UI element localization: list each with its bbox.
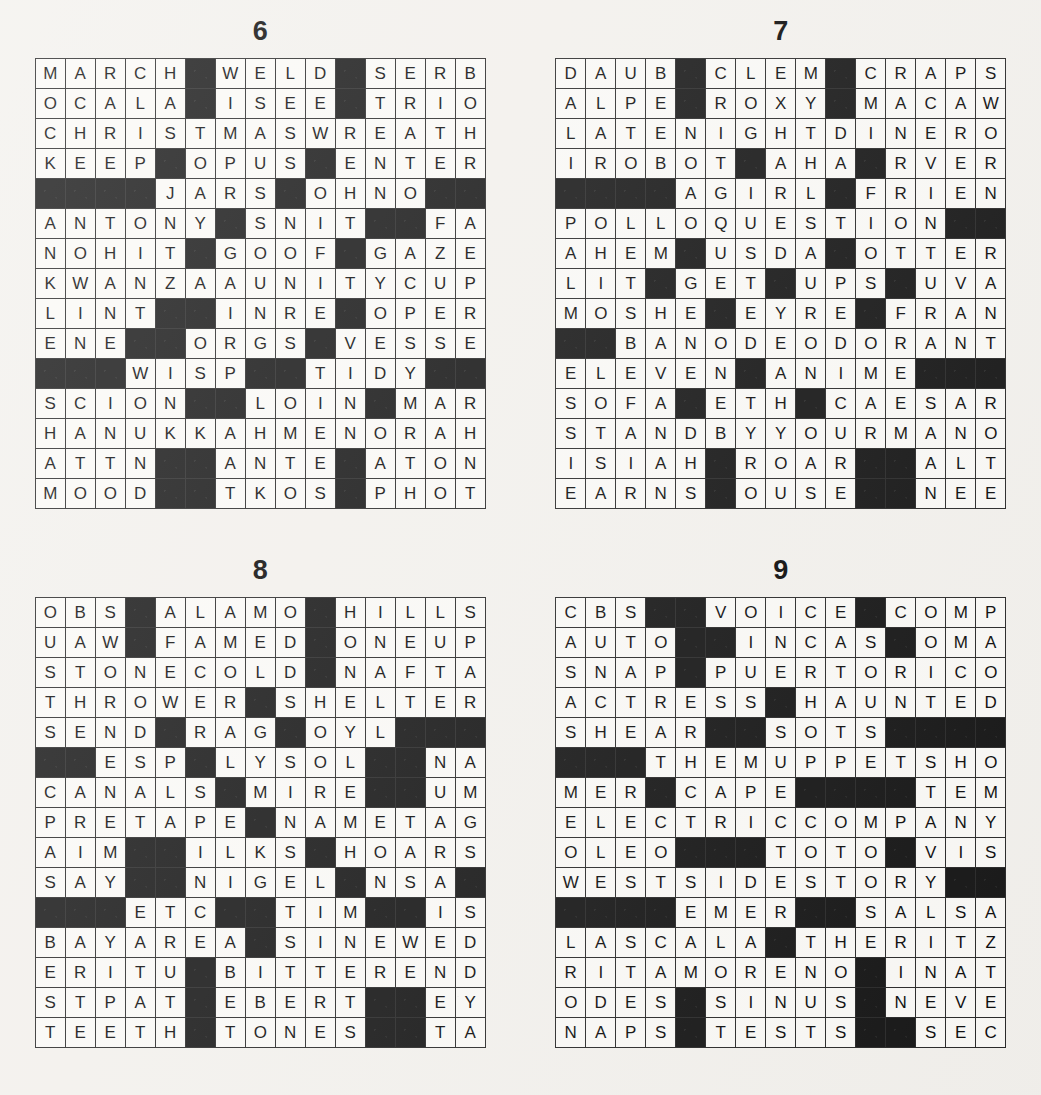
grid-letter-cell[interactable]: A [946, 89, 975, 118]
grid-letter-cell[interactable]: B [646, 59, 675, 88]
grid-block-cell[interactable] [186, 59, 215, 88]
grid-letter-cell[interactable]: S [36, 658, 65, 687]
grid-letter-cell[interactable]: S [586, 449, 615, 478]
grid-letter-cell[interactable]: U [156, 958, 185, 987]
grid-letter-cell[interactable]: N [336, 389, 365, 418]
grid-letter-cell[interactable]: E [676, 688, 705, 717]
grid-letter-cell[interactable]: Y [456, 988, 485, 1017]
grid-block-cell[interactable] [676, 59, 705, 88]
grid-letter-cell[interactable]: I [306, 898, 335, 927]
grid-letter-cell[interactable]: R [66, 958, 95, 987]
grid-block-cell[interactable] [856, 479, 885, 508]
grid-letter-cell[interactable]: I [216, 868, 245, 897]
grid-letter-cell[interactable]: V [946, 269, 975, 298]
grid-letter-cell[interactable]: T [886, 239, 915, 268]
grid-letter-cell[interactable]: I [766, 598, 795, 627]
grid-letter-cell[interactable]: S [366, 59, 395, 88]
grid-block-cell[interactable] [886, 778, 915, 807]
grid-block-cell[interactable] [156, 329, 185, 358]
grid-letter-cell[interactable]: E [366, 329, 395, 358]
grid-letter-cell[interactable]: S [276, 329, 305, 358]
grid-block-cell[interactable] [976, 718, 1005, 747]
grid-letter-cell[interactable]: I [736, 628, 765, 657]
grid-letter-cell[interactable]: L [586, 359, 615, 388]
grid-letter-cell[interactable]: E [856, 928, 885, 957]
grid-letter-cell[interactable]: R [616, 479, 645, 508]
grid-letter-cell[interactable]: A [796, 449, 825, 478]
grid-block-cell[interactable] [396, 988, 425, 1017]
grid-block-cell[interactable] [246, 688, 275, 717]
grid-letter-cell[interactable]: E [456, 329, 485, 358]
grid-letter-cell[interactable]: T [156, 239, 185, 268]
grid-letter-cell[interactable]: O [276, 598, 305, 627]
grid-letter-cell[interactable]: A [646, 718, 675, 747]
grid-letter-cell[interactable]: S [916, 1018, 945, 1047]
grid-letter-cell[interactable]: I [66, 299, 95, 328]
grid-block-cell[interactable] [156, 718, 185, 747]
grid-block-cell[interactable] [676, 658, 705, 687]
grid-letter-cell[interactable]: S [616, 868, 645, 897]
grid-letter-cell[interactable]: P [796, 748, 825, 777]
grid-letter-cell[interactable]: N [96, 299, 125, 328]
grid-letter-cell[interactable]: M [736, 748, 765, 777]
grid-letter-cell[interactable]: S [616, 928, 645, 957]
grid-letter-cell[interactable]: E [646, 89, 675, 118]
grid-letter-cell[interactable]: A [886, 89, 915, 118]
grid-block-cell[interactable] [856, 598, 885, 627]
grid-letter-cell[interactable]: T [126, 299, 155, 328]
grid-letter-cell[interactable]: E [766, 778, 795, 807]
grid-letter-cell[interactable]: T [396, 149, 425, 178]
grid-letter-cell[interactable]: O [426, 449, 455, 478]
grid-block-cell[interactable] [246, 359, 275, 388]
grid-letter-cell[interactable]: N [186, 868, 215, 897]
grid-letter-cell[interactable]: S [36, 389, 65, 418]
grid-letter-cell[interactable]: R [886, 928, 915, 957]
grid-letter-cell[interactable]: O [736, 598, 765, 627]
grid-letter-cell[interactable]: H [586, 239, 615, 268]
grid-letter-cell[interactable]: R [396, 89, 425, 118]
grid-letter-cell[interactable]: Y [916, 868, 945, 897]
grid-letter-cell[interactable]: M [456, 778, 485, 807]
grid-letter-cell[interactable]: L [36, 299, 65, 328]
grid-letter-cell[interactable]: H [676, 449, 705, 478]
grid-block-cell[interactable] [336, 299, 365, 328]
grid-letter-cell[interactable]: L [586, 89, 615, 118]
grid-block-cell[interactable] [676, 838, 705, 867]
grid-letter-cell[interactable]: A [916, 808, 945, 837]
grid-letter-cell[interactable]: M [36, 479, 65, 508]
grid-block-cell[interactable] [426, 179, 455, 208]
grid-letter-cell[interactable]: P [706, 658, 735, 687]
grid-block-cell[interactable] [946, 209, 975, 238]
grid-letter-cell[interactable]: G [246, 718, 275, 747]
grid-letter-cell[interactable]: E [36, 329, 65, 358]
grid-letter-cell[interactable]: E [736, 1018, 765, 1047]
grid-letter-cell[interactable]: E [216, 808, 245, 837]
grid-letter-cell[interactable]: I [126, 239, 155, 268]
grid-letter-cell[interactable]: R [586, 149, 615, 178]
grid-letter-cell[interactable]: B [36, 928, 65, 957]
grid-letter-cell[interactable]: N [276, 808, 305, 837]
grid-letter-cell[interactable]: S [946, 898, 975, 927]
grid-letter-cell[interactable]: I [426, 898, 455, 927]
grid-letter-cell[interactable]: T [66, 988, 95, 1017]
grid-letter-cell[interactable]: A [556, 89, 585, 118]
grid-letter-cell[interactable]: N [796, 359, 825, 388]
grid-block-cell[interactable] [336, 239, 365, 268]
grid-letter-cell[interactable]: E [616, 718, 645, 747]
grid-letter-cell[interactable]: A [36, 209, 65, 238]
grid-letter-cell[interactable]: W [96, 628, 125, 657]
grid-letter-cell[interactable]: O [366, 419, 395, 448]
grid-letter-cell[interactable]: N [706, 359, 735, 388]
grid-letter-cell[interactable]: O [766, 449, 795, 478]
grid-letter-cell[interactable]: H [646, 299, 675, 328]
grid-letter-cell[interactable]: A [366, 449, 395, 478]
grid-letter-cell[interactable]: B [216, 958, 245, 987]
grid-letter-cell[interactable]: N [156, 209, 185, 238]
grid-block-cell[interactable] [946, 359, 975, 388]
grid-block-cell[interactable] [216, 389, 245, 418]
grid-block-cell[interactable] [886, 838, 915, 867]
grid-letter-cell[interactable]: A [586, 119, 615, 148]
grid-letter-cell[interactable]: E [336, 688, 365, 717]
grid-letter-cell[interactable]: U [246, 269, 275, 298]
grid-letter-cell[interactable]: E [246, 628, 275, 657]
